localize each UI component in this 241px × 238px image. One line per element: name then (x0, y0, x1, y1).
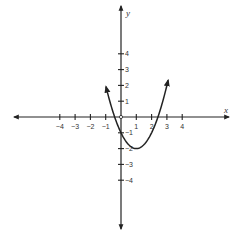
y-axis-label: y (125, 8, 130, 18)
y-tick-label: 1 (125, 98, 129, 105)
y-tick-label: −1 (125, 129, 133, 136)
parabola-path (106, 80, 168, 148)
x-tick-label: 1 (134, 123, 138, 130)
y-tick-label: −4 (125, 177, 133, 184)
x-axis-label: x (223, 105, 228, 115)
coordinate-plane: −4−3−2−112344321−1−2−3−4 x y (0, 0, 241, 238)
y-tick-label: −2 (125, 145, 133, 152)
y-tick-label: 3 (125, 66, 129, 73)
x-tick-label: −3 (71, 123, 79, 130)
x-tick-label: −1 (102, 123, 110, 130)
y-tick-label: 2 (125, 82, 129, 89)
y-tick-label: 4 (125, 50, 129, 57)
origin-marker (119, 115, 122, 118)
x-tick-label: −4 (56, 123, 64, 130)
parabola-curve (106, 80, 168, 148)
x-tick-label: −2 (86, 123, 94, 130)
x-tick-label: 4 (180, 123, 184, 130)
x-tick-label: 3 (165, 123, 169, 130)
y-tick-label: −3 (125, 161, 133, 168)
